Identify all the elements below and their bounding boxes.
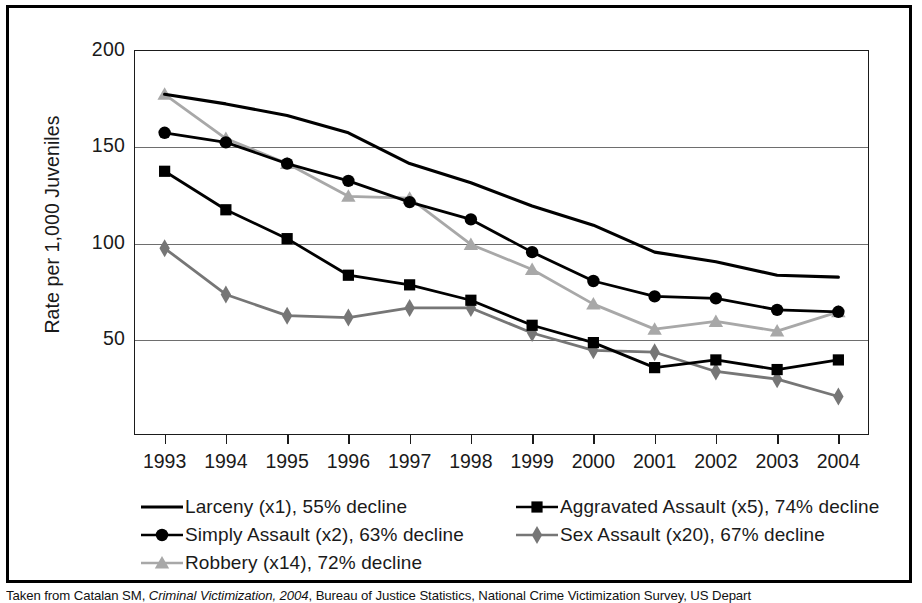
caption-suffix: , Bureau of Justice Statistics, National… <box>309 589 751 603</box>
chart-area: Rate per 1,000 Juveniles 50100150200 199… <box>9 8 909 478</box>
caption-prefix: Taken from Catalan SM, <box>6 589 149 603</box>
x-tick-mark-1997 <box>410 435 412 444</box>
legend-item-aggravated-assault[interactable]: Aggravated Assault (x5), 74% decline <box>514 494 914 519</box>
x-tick-mark-1994 <box>226 435 228 444</box>
chart-legend: Larceny (x1), 55% declineSimply Assault … <box>9 494 909 572</box>
legend-item-larceny[interactable]: Larceny (x1), 55% decline <box>139 494 509 519</box>
legend-column-left: Larceny (x1), 55% declineSimply Assault … <box>139 494 509 578</box>
legend-column-right: Aggravated Assault (x5), 74% declineSex … <box>514 494 914 550</box>
legend-marker-diamond-icon <box>514 525 560 545</box>
x-tick-mark-1996 <box>348 435 350 444</box>
series-simply-assault <box>158 127 844 318</box>
x-tick-mark-1995 <box>287 435 289 444</box>
series-larceny <box>165 94 839 277</box>
data-series-layer <box>134 50 869 435</box>
x-tick-mark-1998 <box>471 435 473 444</box>
y-tick-label-100: 100 <box>69 233 125 253</box>
y-tick-label-150: 150 <box>69 136 125 156</box>
y-axis-tick-labels: 50100150200 <box>55 50 125 435</box>
legend-marker-circle-icon <box>139 525 185 545</box>
series-robbery <box>157 87 845 336</box>
legend-item-simply-assault[interactable]: Simply Assault (x2), 63% decline <box>139 522 509 547</box>
legend-item-label: Simply Assault (x2), 63% decline <box>185 524 464 545</box>
x-axis-tick-labels: 1993199419951996199719981999200020012002… <box>134 435 869 475</box>
y-tick-label-200: 200 <box>69 40 125 60</box>
series-sex-assault <box>159 239 843 405</box>
x-tick-mark-2000 <box>593 435 595 444</box>
legend-item-label: Larceny (x1), 55% decline <box>185 496 407 517</box>
legend-item-label: Robbery (x14), 72% decline <box>185 552 422 573</box>
legend-item-sex-assault[interactable]: Sex Assault (x20), 67% decline <box>514 522 914 547</box>
legend-marker-none-icon <box>139 497 185 517</box>
legend-item-label: Aggravated Assault (x5), 74% decline <box>560 496 879 517</box>
legend-marker-triangle-icon <box>139 553 185 573</box>
y-tick-label-50: 50 <box>69 329 125 349</box>
x-tick-mark-2001 <box>655 435 657 444</box>
x-tick-mark-1993 <box>165 435 167 444</box>
x-tick-mark-2002 <box>716 435 718 444</box>
x-tick-mark-2004 <box>838 435 840 444</box>
figure-frame: Rate per 1,000 Juveniles 50100150200 199… <box>6 5 912 583</box>
legend-marker-square-icon <box>514 497 560 517</box>
figure-caption: Taken from Catalan SM, Criminal Victimiz… <box>6 589 922 603</box>
series-aggravated-assault <box>159 166 844 375</box>
x-tick-mark-1999 <box>532 435 534 444</box>
caption-source-title: Criminal Victimization, 2004 <box>149 589 309 603</box>
x-tick-mark-2003 <box>777 435 779 444</box>
x-tick-label-2004: 2004 <box>798 451 878 471</box>
legend-item-robbery[interactable]: Robbery (x14), 72% decline <box>139 550 509 575</box>
legend-item-label: Sex Assault (x20), 67% decline <box>560 524 825 545</box>
